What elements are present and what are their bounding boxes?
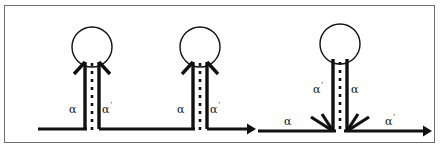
hairpin-3-label-alpha-prime-stem: α bbox=[313, 83, 321, 96]
hairpin-1-label-alpha-prime: α bbox=[102, 103, 110, 116]
hairpin-1-label-alpha: α bbox=[69, 103, 77, 116]
hairpin-1-loop-icon bbox=[72, 27, 112, 67]
hairpin-3-label-alpha-prime-baseline-mark: ‘ bbox=[393, 113, 395, 121]
figure-container: α α ‘ α α ‘ bbox=[0, 0, 440, 150]
hairpin-3-label-alpha-stem: α bbox=[351, 83, 359, 96]
hairpin-2-label-alpha-prime: α bbox=[210, 103, 218, 116]
hairpin-3-loop-icon bbox=[320, 24, 360, 64]
hairpin-1-label-alpha-prime-mark: ‘ bbox=[110, 101, 112, 109]
hairpin-3-label-alpha-baseline: α bbox=[284, 115, 292, 128]
hairpin-3-label-alpha-prime-stem-mark: ‘ bbox=[321, 81, 323, 89]
hairpin-2-loop-icon bbox=[180, 27, 220, 67]
hairpin-2-label-alpha: α bbox=[177, 103, 185, 116]
hairpin-2-label-alpha-prime-mark: ‘ bbox=[218, 101, 220, 109]
hairpin-3-label-alpha-prime-baseline: α bbox=[385, 115, 393, 128]
hairpin-strand-diagram: α α ‘ α α ‘ bbox=[0, 0, 440, 150]
